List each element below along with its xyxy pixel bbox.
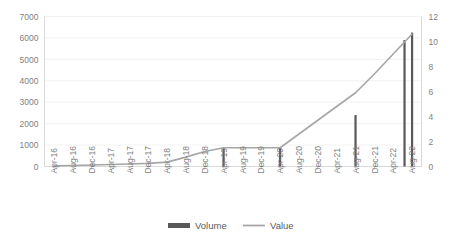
x-axis-tick-label: Aug-21	[351, 146, 361, 174]
legend-label-volume: Volume	[195, 220, 227, 231]
y-axis-left-tick-label: 7000	[20, 12, 39, 22]
x-axis-tick-label: Aug-17	[125, 146, 135, 174]
y-axis-right-tick-label: 2	[429, 137, 434, 147]
chart-container: 70006000500040003000200010000121086420Ap…	[0, 0, 454, 242]
y-axis-right-tick-label: 8	[429, 62, 434, 72]
y-axis-right-tick-label: 4	[429, 112, 434, 122]
x-axis-tick-label: Aug-18	[181, 146, 191, 174]
x-axis-tick-label: Apr-16	[49, 148, 59, 174]
legend-swatch-volume	[168, 223, 190, 228]
y-axis-right-tick-label: 0	[429, 162, 434, 172]
y-axis-left-tick-label: 2000	[20, 119, 39, 129]
x-axis-tick-label: Aug-19	[238, 146, 248, 174]
x-axis-tick-label: Dec-17	[143, 146, 153, 174]
x-axis-tick-label: Dec-16	[87, 146, 97, 174]
y-axis-left-tick-label: 1000	[20, 140, 39, 150]
x-axis-tick-label: Aug-16	[68, 146, 78, 174]
y-axis-left-tick-label: 3000	[20, 97, 39, 107]
y-axis-right-tick-label: 12	[429, 12, 439, 22]
y-axis-right-tick-label: 10	[429, 37, 439, 47]
x-axis-tick-label: Dec-18	[200, 146, 210, 174]
x-axis-tick-label: Dec-19	[256, 146, 266, 174]
y-axis-right-tick-label: 6	[429, 87, 434, 97]
y-axis-left-tick-label: 0	[34, 162, 39, 172]
x-axis-tick-label: Dec-20	[313, 146, 323, 174]
x-axis-tick-label: Apr-22	[388, 148, 398, 174]
x-axis-tick-label: Aug-20	[294, 146, 304, 174]
x-axis-tick-label: Dec-21	[370, 146, 380, 174]
y-axis-left-tick-label: 5000	[20, 55, 39, 65]
y-axis-left-tick-label: 6000	[20, 33, 39, 43]
legend: VolumeValue	[168, 220, 294, 231]
x-axis-tick-label: Apr-18	[162, 148, 172, 174]
x-axis-tick-label: Aug-22	[407, 146, 417, 174]
legend-label-value: Value	[270, 220, 294, 231]
x-axis-tick-label: Apr-20	[275, 148, 285, 174]
x-axis-tick-label: Apr-17	[106, 148, 116, 174]
x-axis-tick-label: Apr-21	[332, 148, 342, 174]
chart-svg: 70006000500040003000200010000121086420Ap…	[0, 0, 454, 242]
x-axis-tick-label: Apr-19	[219, 148, 229, 174]
y-axis-left-tick-label: 4000	[20, 76, 39, 86]
volume-bar	[403, 40, 405, 166]
